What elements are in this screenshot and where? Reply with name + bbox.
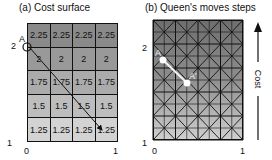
cost-axis-label: Cost (253, 70, 263, 89)
cost-arrow-icon (0, 0, 272, 160)
